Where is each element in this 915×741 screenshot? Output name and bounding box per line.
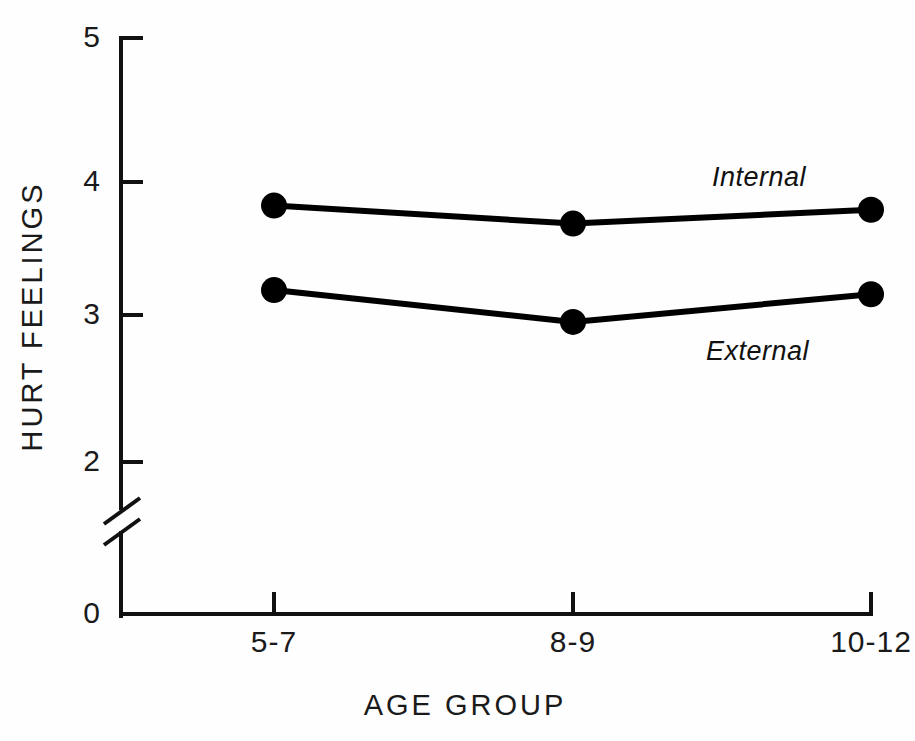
- data-point-external-10-12: [858, 281, 884, 307]
- y-axis-title: HURT FEELINGS: [16, 177, 49, 457]
- x-tick-label-5-7: 5-7: [204, 625, 344, 659]
- series-label-internal: Internal: [712, 162, 806, 193]
- series-label-external: External: [706, 336, 809, 367]
- y-tick-label-4: 4: [60, 164, 100, 198]
- y-tick-label-2: 2: [60, 444, 100, 478]
- x-tick-label-8-9: 8-9: [503, 625, 643, 659]
- data-point-external-8-9: [560, 309, 586, 335]
- y-tick-label-0: 0: [60, 596, 100, 630]
- y-tick-label-3: 3: [60, 297, 100, 331]
- data-point-internal-8-9: [560, 211, 586, 237]
- x-axis-title: AGE GROUP: [315, 689, 615, 722]
- data-point-internal-10-12: [858, 197, 884, 223]
- x-tick-label-10-12: 10-12: [801, 625, 915, 659]
- y-tick-label-5: 5: [60, 20, 100, 54]
- chart-plot-area: [0, 0, 915, 741]
- chart-figure: 5 4 3 2 0 5-7 8-9 10-12 HURT FEELINGS AG…: [0, 0, 915, 741]
- data-point-internal-5-7: [261, 193, 287, 219]
- data-point-external-5-7: [261, 277, 287, 303]
